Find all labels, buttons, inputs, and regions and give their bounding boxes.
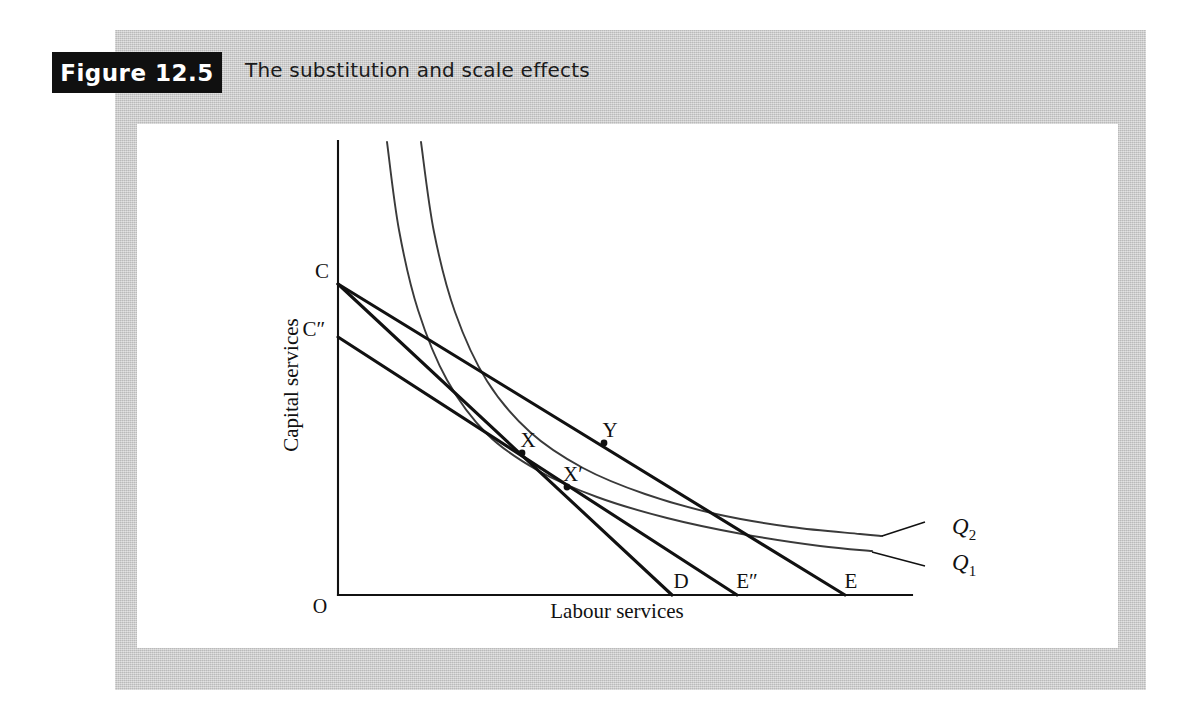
figure-caption: The substitution and scale effects [245,58,590,82]
figure-root: Figure 12.5 The substitution and scale e… [0,0,1200,728]
figure-number-badge: Figure 12.5 [52,52,222,93]
figure-panel [137,124,1118,648]
